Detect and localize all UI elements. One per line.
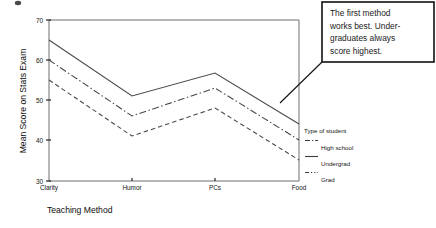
legend-label-high-school: High school	[321, 144, 353, 151]
legend-title: Type of student	[304, 127, 347, 134]
callout-line-3: graduates always	[330, 33, 395, 43]
line-chart-svg: 70 60 50 40 30 Clarity Humor PCs Food Me…	[0, 0, 436, 228]
callout-line-4: score highest.	[330, 46, 382, 56]
y-tick-label-40: 40	[36, 137, 44, 144]
callout-leader-line	[280, 62, 322, 103]
callout-line-1: The first method	[330, 8, 391, 18]
y-tick-label-70: 70	[36, 17, 44, 24]
legend-label-undergrad: Undergrad	[321, 160, 351, 167]
legend-label-grad: Grad	[321, 176, 335, 183]
legend: Type of student High school Undergrad Gr…	[304, 127, 353, 183]
scan-artifact-speck	[15, 1, 21, 5]
y-axis-title: Mean Score on Stats Exam	[18, 49, 28, 154]
y-tick-label-60: 60	[36, 57, 44, 64]
x-tick-label-pcs: PCs	[209, 184, 221, 191]
x-tick-label-food: Food	[292, 184, 307, 191]
series-line-grad	[49, 80, 299, 160]
chart-figure: 70 60 50 40 30 Clarity Humor PCs Food Me…	[0, 0, 436, 228]
x-axis-title: Teaching Method	[47, 205, 113, 215]
callout-line-2: works best. Under-	[329, 21, 400, 31]
series-line-undergrad	[49, 60, 299, 140]
x-tick-label-clarity: Clarity	[40, 184, 59, 192]
series-line-high-school	[49, 40, 299, 124]
y-tick-label-50: 50	[36, 97, 44, 104]
x-tick-label-humor: Humor	[122, 184, 142, 191]
